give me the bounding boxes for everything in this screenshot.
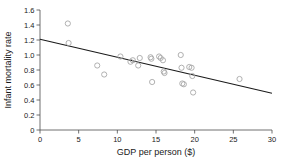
- x-tick-label: 10: [113, 135, 121, 144]
- y-tick-label: 0.4: [24, 96, 34, 105]
- y-tick-label: 1.0: [24, 51, 34, 60]
- y-tick-label: 1.4: [24, 21, 34, 30]
- data-point-marker: [95, 63, 100, 68]
- trend-line: [40, 39, 272, 93]
- x-axis-title: GDP per person ($): [117, 147, 195, 157]
- x-tick-label: 0: [38, 135, 42, 144]
- scatter-chart: 00.20.40.60.81.01.21.41.6051015202530GDP…: [0, 0, 283, 160]
- y-tick-label: 0: [30, 126, 34, 135]
- x-tick-label: 15: [152, 135, 160, 144]
- y-tick-label: 1.6: [24, 6, 34, 15]
- y-tick-label: 0.8: [24, 66, 34, 75]
- y-tick-label: 0.2: [24, 111, 34, 120]
- data-point-marker: [137, 55, 142, 60]
- data-point-marker: [66, 40, 71, 45]
- data-point-marker: [237, 76, 242, 81]
- x-tick-label: 30: [268, 135, 276, 144]
- y-tick-label: 0.6: [24, 81, 34, 90]
- x-tick-label: 20: [190, 135, 198, 144]
- x-tick-label: 5: [77, 135, 81, 144]
- y-tick-label: 1.2: [24, 36, 34, 45]
- data-point-marker: [65, 21, 70, 26]
- data-point-marker: [136, 63, 141, 68]
- data-point-marker: [191, 90, 196, 95]
- x-tick-label: 25: [229, 135, 237, 144]
- data-point-marker: [150, 79, 155, 84]
- data-point-marker: [102, 72, 107, 77]
- data-point-marker: [179, 65, 184, 70]
- y-axis-title: Infant mortality rate: [3, 31, 13, 108]
- data-point-marker: [178, 52, 183, 57]
